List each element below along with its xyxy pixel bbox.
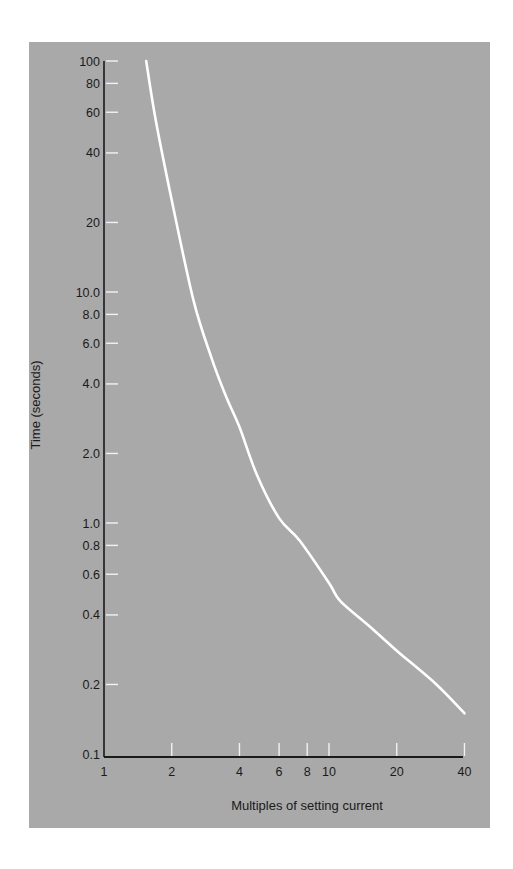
y-tick-label: 6.0	[83, 337, 100, 351]
x-tick-label: 2	[168, 765, 175, 779]
x-tick-label: 6	[276, 765, 283, 779]
y-tick-label: 0.8	[83, 539, 100, 553]
y-tick-label: 4.0	[83, 377, 100, 391]
x-tick-label: 1	[101, 765, 108, 779]
y-tick-label: 60	[86, 106, 100, 120]
y-tick-label: 40	[86, 146, 100, 160]
y-axis-title: Time (seconds)	[28, 360, 43, 449]
y-tick-label: 0.4	[83, 608, 100, 622]
x-tick-label: 40	[458, 765, 472, 779]
y-tick-label: 2.0	[83, 447, 100, 461]
chart: 0.10.20.40.60.81.02.04.06.08.010.0204060…	[0, 0, 513, 869]
x-tick-label: 8	[304, 765, 311, 779]
y-tick-label: 20	[86, 216, 100, 230]
y-tick-label: 10.0	[76, 286, 100, 300]
x-tick-label: 10	[322, 765, 336, 779]
y-tick-label: 8.0	[83, 308, 100, 322]
x-tick-label: 4	[236, 765, 243, 779]
y-axis-ticks: 0.10.20.40.60.81.02.04.06.08.010.0204060…	[76, 55, 118, 762]
y-tick-label: 1.0	[83, 517, 100, 531]
data-series-curve	[146, 61, 464, 713]
x-tick-label: 20	[390, 765, 404, 779]
y-tick-label: 0.6	[83, 568, 100, 582]
x-axis-title: Multiples of setting current	[231, 798, 383, 813]
x-axis-ticks: 12468102040	[101, 743, 472, 779]
y-tick-label: 80	[86, 77, 100, 91]
y-tick-label: 100	[79, 55, 100, 69]
y-tick-label: 0.1	[83, 748, 100, 762]
y-tick-label: 0.2	[83, 678, 100, 692]
